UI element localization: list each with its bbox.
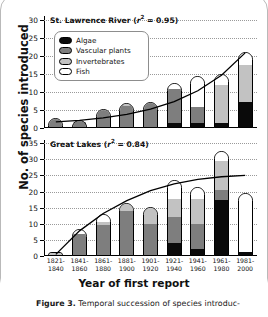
x-tick-label: 1841-1860 [68,257,92,272]
y-tick-label: 20 [29,51,38,60]
y-tick-label: 30 [29,155,38,164]
legend-item-fish: Fish [59,67,144,78]
legend-swatch-vascular [59,47,72,54]
x-tick-label: 1981-2000 [233,257,257,272]
y-tick-label: 25 [29,33,38,42]
legend-label-fish: Fish [76,67,90,76]
legend-swatch-fish [59,68,72,75]
x-tick-label: 1821-1840 [44,257,68,272]
y-tick-label: 25 [29,171,38,180]
y-tick-label: 5 [33,105,38,114]
legend-item-algae: Algae [59,35,144,46]
legend-label-invert: Invertebrates [76,57,124,66]
y-tick-label: 5 [33,235,38,244]
caption-text: Temporal succession of species introduc- [76,299,240,308]
legend-label-algae: Algae [76,36,96,45]
y-tick-label: 15 [29,203,38,212]
x-tick-label: 1901-1920 [139,257,163,272]
legend-label-vascular: Vascular plants [76,46,131,55]
legend: AlgaeVascular plantsInvertebratesFish [54,31,149,81]
y-tick-label: 10 [29,219,38,228]
y-tick [40,128,44,129]
x-axis-tick-labels: 1821-18401841-18601861-18801881-19001901… [44,257,257,275]
x-axis-title: Year of first report [0,277,268,289]
y-tick-label: 0 [33,252,38,261]
y-tick-label: 35 [29,139,38,148]
legend-swatch-invert [59,58,72,65]
legend-item-vascular: Vascular plants [59,46,144,57]
y-tick-label: 30 [29,15,38,24]
panel-great-lakes: 05101520253035 Great Lakes (r2 = 0.84) [44,140,257,256]
figure-caption: Figure 3. Temporal succession of species… [36,298,268,309]
plot-area-bottom: 05101520253035 [44,140,257,256]
fitted-curve [44,140,257,256]
x-tick-label: 1961-1980 [210,257,234,272]
legend-item-invert: Invertebrates [59,56,144,67]
x-tick-label: 1861-1880 [91,257,115,272]
legend-swatch-algae [59,37,72,44]
panel-title-top: St. Lawrence River (r2 = 0.95) [50,14,178,25]
figure-page: No. of species introduced 051015202530 S… [0,0,268,317]
panel-title-bottom: Great Lakes (r2 = 0.84) [50,138,149,149]
x-tick-label: 1941-1960 [186,257,210,272]
y-tick-label: 10 [29,87,38,96]
x-tick-label: 1881-1900 [115,257,139,272]
caption-label: Figure 3. [36,299,76,308]
y-tick-label: 0 [33,124,38,133]
y-tick-label: 20 [29,187,38,196]
x-tick-label: 1921-1940 [162,257,186,272]
y-tick-label: 15 [29,69,38,78]
